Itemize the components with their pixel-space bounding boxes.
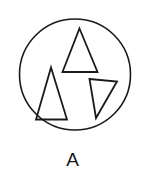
left-triangle [36, 68, 67, 120]
figure-panel: A [0, 0, 145, 183]
enclosing-circle [20, 19, 131, 130]
figure-label: A [0, 148, 145, 172]
upper-triangle [63, 29, 98, 73]
right-triangle [90, 79, 118, 118]
